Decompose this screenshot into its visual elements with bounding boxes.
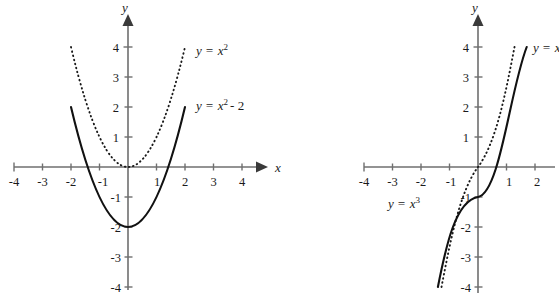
right-xtick--2: -2 — [416, 175, 426, 189]
right-label-x-cubed-exp: 3 — [416, 195, 421, 205]
right-x-axis — [364, 163, 555, 172]
left-xtick--1: -1 — [98, 175, 108, 189]
left-xtick--3: -3 — [37, 175, 47, 189]
left-label-x-squared-minus-2-tail: - 2 — [230, 98, 244, 113]
left-label-x-squared: y =x2 — [194, 42, 228, 58]
right-ytick--2: -2 — [461, 221, 471, 235]
left-y-axis — [123, 14, 134, 290]
right-y-axis-label: y — [470, 0, 478, 15]
right-label-solid-base: x — [554, 40, 559, 55]
left-ytick--4: -4 — [111, 281, 122, 295]
left-label-x-squared-lhs: y = — [194, 43, 214, 58]
left-xtick-3: 3 — [210, 175, 216, 189]
left-xtick-4: 4 — [239, 175, 246, 189]
graph-panel-right: y -4 -3 -2 -1 1 2 4 3 2 1 -1 -2 -3 -4 y … — [290, 0, 559, 297]
right-xtick-2: 2 — [534, 175, 540, 189]
left-ytick-1: 1 — [113, 131, 119, 145]
right-ytick--3: -3 — [461, 251, 471, 265]
right-xtick--3: -3 — [387, 175, 397, 189]
left-x-axis — [14, 162, 268, 173]
left-x-axis-label: x — [274, 160, 281, 175]
left-xtick--2: -2 — [66, 175, 76, 189]
left-plot-svg: y x -4 -3 -2 -1 1 2 3 4 4 3 2 1 -1 -2 -3… — [0, 0, 300, 297]
right-ytick--1: -1 — [461, 191, 471, 205]
left-ytick-2: 2 — [113, 101, 119, 115]
right-xtick--4: -4 — [359, 175, 370, 189]
left-label-x-squared-minus-2-lhs: y = — [194, 98, 214, 113]
right-ytick-2: 2 — [463, 101, 469, 115]
right-xtick-1: 1 — [506, 175, 512, 189]
left-xtick-2: 2 — [182, 175, 188, 189]
right-label-solid-lhs: y = — [531, 40, 551, 55]
left-ytick-4: 4 — [113, 41, 120, 55]
right-y-axis — [473, 14, 484, 293]
left-ytick--2: -2 — [111, 221, 121, 235]
right-ytick--4: -4 — [461, 281, 472, 295]
right-label-solid-clipped: y =x — [531, 40, 559, 55]
right-ytick-4: 4 — [463, 41, 470, 55]
math-figure: y x -4 -3 -2 -1 1 2 3 4 4 3 2 1 -1 -2 -3… — [0, 0, 559, 297]
left-label-x-squared-minus-2: y =x2- 2 — [194, 97, 244, 113]
left-xtick--4: -4 — [9, 175, 20, 189]
left-label-x-squared-exp: 2 — [224, 42, 229, 52]
left-y-axis-label: y — [120, 0, 128, 15]
right-label-x-cubed: y =x3 — [386, 195, 421, 211]
right-plot-svg: y -4 -3 -2 -1 1 2 4 3 2 1 -1 -2 -3 -4 y … — [290, 0, 559, 297]
left-ytick--1: -1 — [111, 191, 121, 205]
right-xtick--1: -1 — [446, 175, 456, 189]
right-ytick-1: 1 — [463, 131, 469, 145]
left-xtick-1: 1 — [154, 175, 160, 189]
graph-panel-left: y x -4 -3 -2 -1 1 2 3 4 4 3 2 1 -1 -2 -3… — [0, 0, 300, 297]
right-ytick-3: 3 — [463, 71, 469, 85]
left-ytick--3: -3 — [111, 251, 121, 265]
right-label-x-cubed-lhs: y = — [386, 196, 406, 211]
left-ytick-3: 3 — [113, 71, 119, 85]
left-label-x-squared-minus-2-exp: 2 — [224, 97, 229, 107]
